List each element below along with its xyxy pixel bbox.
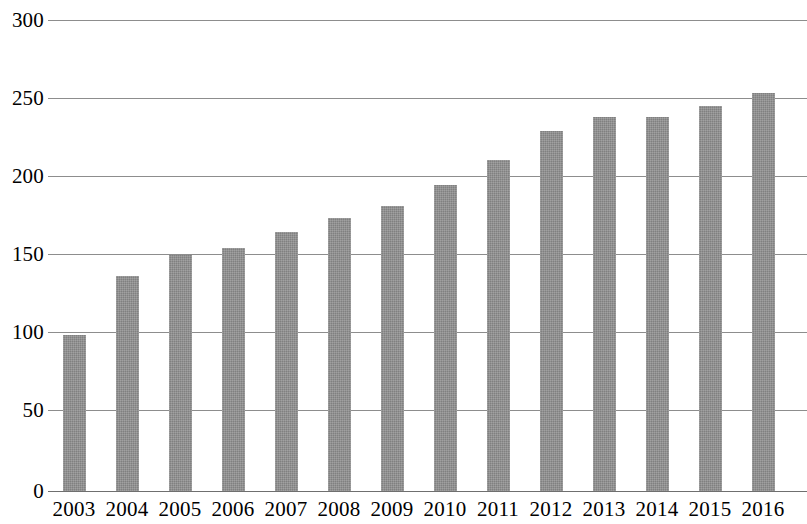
bar-2006 (222, 248, 245, 491)
x-tick-label-2016: 2016 (732, 497, 794, 521)
gridline-50 (48, 410, 807, 411)
bar-2008 (328, 218, 351, 491)
bar-2015 (699, 106, 722, 491)
gridline-250 (48, 98, 807, 99)
bar-2003 (63, 335, 86, 491)
bar-2004 (116, 276, 139, 491)
y-tick-label-0: 0 (0, 481, 44, 502)
x-axis-baseline (48, 491, 807, 492)
bar-2013 (593, 117, 616, 491)
gridline-150 (48, 254, 807, 255)
y-tick-label-300: 300 (0, 10, 44, 31)
gridline-300 (48, 20, 807, 21)
y-tick-label-100: 100 (0, 322, 44, 343)
plot-area (48, 0, 807, 524)
bar-2016 (752, 93, 775, 491)
bar-2009 (381, 206, 404, 491)
y-tick-label-50: 50 (0, 400, 44, 421)
gridline-200 (48, 176, 807, 177)
y-tick-label-150: 150 (0, 244, 44, 265)
bar-2014 (646, 117, 669, 491)
bar-chart: 300 250 200 150 100 50 0 2003 2004 2005 … (0, 0, 807, 524)
bar-2005 (169, 255, 192, 491)
y-tick-label-250: 250 (0, 88, 44, 109)
bar-2010 (434, 185, 457, 491)
bar-2007 (275, 232, 298, 491)
gridline-100 (48, 332, 807, 333)
bar-2011 (487, 160, 510, 491)
bar-2012 (540, 131, 563, 491)
y-tick-label-200: 200 (0, 166, 44, 187)
